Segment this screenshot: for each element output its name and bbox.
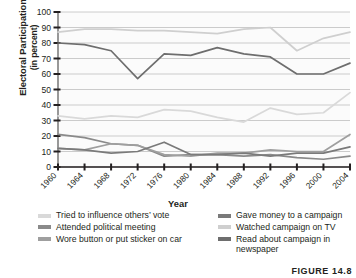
x-axis-tick-label: 2004: [330, 170, 350, 190]
legend-label: Attended political meeting: [56, 222, 156, 232]
legend-label: Gave money to a campaign: [236, 210, 342, 220]
x-axis-tick-label: 1996: [277, 170, 297, 190]
x-axis-tick-label: 1988: [224, 170, 244, 190]
x-axis-title: Year: [0, 198, 356, 209]
x-axis-tick-label: 1972: [118, 170, 138, 190]
legend-item[interactable]: Read about campaign in newspaper: [218, 234, 356, 255]
chart-plot-area: 0102030405060708090100196019641968197219…: [0, 0, 356, 200]
y-axis-tick-label: 30: [41, 116, 51, 126]
legend-item[interactable]: Wore button or put sticker on car: [38, 234, 218, 244]
figure-container: Electoral Participation (in percent) 010…: [0, 0, 356, 278]
y-axis-tick-label: 80: [41, 38, 51, 48]
y-axis-tick-label: 20: [41, 131, 51, 141]
legend-item[interactable]: Gave money to a campaign: [218, 210, 356, 220]
x-axis-tick-label: 1984: [197, 170, 217, 190]
x-axis-tick-label: 1968: [91, 170, 111, 190]
legend-swatch-icon: [38, 214, 51, 218]
y-axis-tick-label: 60: [41, 69, 51, 79]
legend-item[interactable]: Attended political meeting: [38, 222, 218, 232]
legend-item[interactable]: Tried to influence others’ vote: [38, 210, 218, 220]
legend-swatch-icon: [218, 225, 231, 229]
x-axis-tick-label: 1976: [144, 170, 164, 190]
legend-label: Watched campaign on TV: [236, 222, 335, 232]
legend-item[interactable]: Watched campaign on TV: [218, 222, 356, 232]
figure-caption: FIGURE 14.8: [291, 266, 352, 276]
line-chart: 0102030405060708090100196019641968197219…: [0, 0, 356, 200]
legend-swatch-icon: [218, 237, 231, 241]
legend-swatch-icon: [218, 214, 231, 218]
chart-legend: Tried to influence others’ voteAttended …: [0, 210, 356, 256]
legend-label: Wore button or put sticker on car: [56, 234, 182, 244]
y-axis-tick-label: 70: [41, 54, 51, 64]
legend-label: Tried to influence others’ vote: [56, 210, 169, 220]
legend-swatch-icon: [38, 237, 51, 241]
x-axis-tick-label: 1964: [65, 170, 85, 190]
legend-column-left: Tried to influence others’ voteAttended …: [38, 210, 218, 256]
x-axis-tick-label: 1960: [38, 170, 58, 190]
y-axis-tick-label: 100: [37, 7, 52, 17]
legend-column-right: Gave money to a campaignWatched campaign…: [218, 210, 356, 256]
y-axis-tick-label: 90: [41, 23, 51, 33]
y-axis-tick-label: 10: [41, 147, 51, 157]
y-axis-tick-label: 40: [41, 100, 51, 110]
legend-swatch-icon: [38, 225, 51, 229]
y-axis-tick-label: 50: [41, 85, 51, 95]
x-axis-tick-label: 1992: [251, 170, 271, 190]
x-axis-tick-label: 2000: [304, 170, 324, 190]
x-axis-tick-label: 1980: [171, 170, 191, 190]
legend-label: Read about campaign in newspaper: [236, 234, 356, 255]
